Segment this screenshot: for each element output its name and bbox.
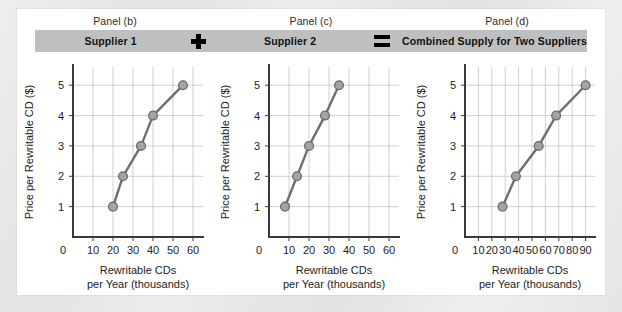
- x-tick-label: 60: [383, 244, 395, 256]
- x-tick-label: 60: [187, 244, 199, 256]
- x-tick-label: 30: [323, 244, 335, 256]
- y-tick-label: 4: [450, 110, 456, 122]
- y-tick-label: 2: [58, 170, 64, 182]
- x-tick-label: 10: [87, 244, 99, 256]
- panel-caption-d: Panel (d): [409, 13, 605, 30]
- title-combined-supply: Combined Supply for Two Suppliers: [402, 35, 587, 47]
- data-point-marker: [281, 202, 290, 211]
- plus-operator: [178, 34, 218, 49]
- y-axis-title: Price per Rewritable CD ($): [219, 85, 231, 219]
- y-axis-title: Price per Rewritable CD ($): [415, 85, 427, 219]
- x-axis-title-line-1: Rewritable CDs: [100, 264, 177, 276]
- x-axis-title-line-1: Rewritable CDs: [296, 264, 373, 276]
- y-tick-label: 3: [254, 140, 260, 152]
- equals-operator: [362, 35, 402, 47]
- data-point-marker: [512, 172, 521, 181]
- y-tick-label: 1: [58, 201, 64, 213]
- x-tick-label: 40: [343, 244, 355, 256]
- x-tick-label: 70: [553, 244, 565, 256]
- x-axis-title-line-2: per Year (thousands): [87, 278, 189, 290]
- y-tick-label: 1: [450, 201, 456, 213]
- title-supplier-1: Supplier 1: [43, 35, 178, 47]
- supply-chart-combined: 010203040506070809012345Price per Rewrit…: [409, 55, 605, 293]
- charts-row: 010203040506012345Price per Rewritable C…: [17, 55, 605, 293]
- y-tick-label: 4: [254, 110, 260, 122]
- x-tick-label: 80: [566, 244, 578, 256]
- x-axis-title-line-2: per Year (thousands): [479, 278, 581, 290]
- data-point-marker: [109, 202, 118, 211]
- y-tick-label: 2: [450, 170, 456, 182]
- x-tick-label: 10: [472, 244, 484, 256]
- data-point-marker: [305, 142, 314, 151]
- y-tick-label: 5: [450, 79, 456, 91]
- x-tick-label: 0: [60, 244, 66, 256]
- y-tick-label: 2: [254, 170, 260, 182]
- axis-lines: [465, 65, 595, 237]
- title-supplier-2: Supplier 2: [218, 35, 362, 47]
- axis-lines: [269, 65, 399, 237]
- x-tick-label: 20: [486, 244, 498, 256]
- panel-caption-c: Panel (c): [213, 13, 409, 30]
- x-tick-label: 0: [452, 244, 458, 256]
- x-tick-label: 20: [107, 244, 119, 256]
- x-tick-label: 10: [283, 244, 295, 256]
- y-tick-label: 5: [254, 79, 260, 91]
- y-tick-label: 4: [58, 110, 64, 122]
- chart-panel-d: 010203040506070809012345Price per Rewrit…: [409, 55, 605, 293]
- x-axis-title-line-2: per Year (thousands): [283, 278, 385, 290]
- chart-panel-b: 010203040506012345Price per Rewritable C…: [17, 55, 213, 293]
- x-tick-label: 50: [363, 244, 375, 256]
- data-point-marker: [321, 111, 330, 120]
- y-tick-label: 5: [58, 79, 64, 91]
- supply-chart-supplier-1: 010203040506012345Price per Rewritable C…: [17, 55, 213, 293]
- data-point-marker: [293, 172, 302, 181]
- x-tick-label: 60: [539, 244, 551, 256]
- x-tick-label: 0: [256, 244, 262, 256]
- supply-title-bar: Supplier 1 Supplier 2 Combined Supply fo…: [35, 30, 587, 52]
- x-tick-label: 50: [167, 244, 179, 256]
- data-point-marker: [137, 142, 146, 151]
- y-tick-label: 3: [450, 140, 456, 152]
- equals-icon: [374, 35, 390, 47]
- x-tick-label: 90: [579, 244, 591, 256]
- x-tick-label: 30: [499, 244, 511, 256]
- x-tick-label: 50: [526, 244, 538, 256]
- figure-card: Panel (b) Panel (c) Panel (d) Supplier 1…: [17, 9, 605, 295]
- x-tick-label: 20: [303, 244, 315, 256]
- data-point-marker: [498, 202, 507, 211]
- y-tick-label: 1: [254, 201, 260, 213]
- data-point-marker: [534, 142, 543, 151]
- x-tick-label: 40: [512, 244, 524, 256]
- y-axis-title: Price per Rewritable CD ($): [23, 85, 35, 219]
- data-point-marker: [552, 111, 561, 120]
- x-tick-label: 30: [127, 244, 139, 256]
- data-point-marker: [149, 111, 158, 120]
- data-point-marker: [119, 172, 128, 181]
- x-axis-title-line-1: Rewritable CDs: [492, 264, 569, 276]
- plus-icon: [191, 34, 206, 49]
- x-tick-label: 40: [147, 244, 159, 256]
- data-point-marker: [179, 81, 188, 90]
- data-point-marker: [581, 81, 590, 90]
- y-tick-label: 3: [58, 140, 64, 152]
- supply-chart-supplier-2: 010203040506012345Price per Rewritable C…: [213, 55, 409, 293]
- data-point-marker: [335, 81, 344, 90]
- panel-caption-b: Panel (b): [17, 13, 213, 30]
- panel-caption-row: Panel (b) Panel (c) Panel (d): [17, 13, 605, 30]
- chart-panel-c: 010203040506012345Price per Rewritable C…: [213, 55, 409, 293]
